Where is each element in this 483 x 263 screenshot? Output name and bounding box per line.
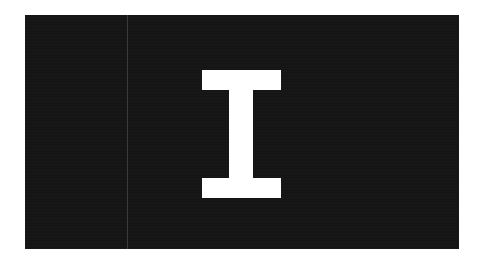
- vertical-divider: [127, 15, 128, 249]
- canvas: I: [0, 0, 483, 263]
- dark-panel: I: [25, 15, 459, 249]
- glyph-top-serif: [202, 70, 281, 90]
- glyph-bottom-serif: [202, 178, 281, 198]
- letter-i-icon: I: [202, 70, 281, 198]
- glyph-stem: [229, 90, 253, 178]
